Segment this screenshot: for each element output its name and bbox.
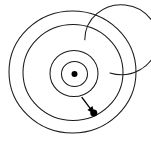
spiral-diagram-svg	[0, 0, 151, 149]
center-origin-dot	[72, 71, 78, 77]
figure-canvas: Archimedean spiral with radial pitch mar…	[0, 0, 151, 149]
arrow-endpoint-dot	[90, 110, 97, 117]
